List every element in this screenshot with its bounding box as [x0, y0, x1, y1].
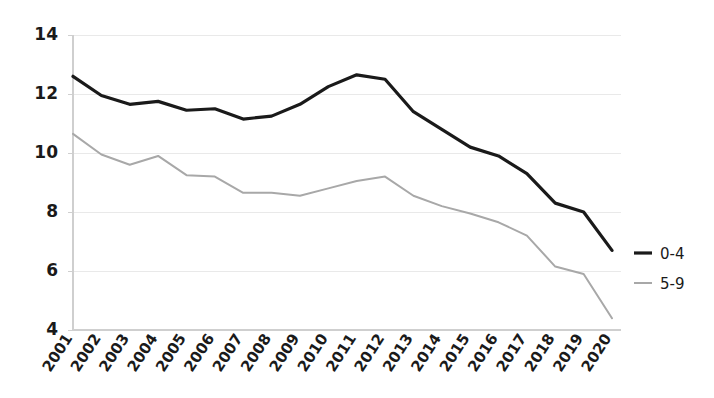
- y-tick-label-8: 8: [46, 201, 58, 221]
- chart-canvas: 468101214 200120022003200420052006200720…: [0, 0, 714, 398]
- y-tick-label-14: 14: [34, 24, 58, 44]
- y-tick-label-12: 12: [34, 83, 58, 103]
- line-chart: 468101214 200120022003200420052006200720…: [0, 0, 714, 398]
- legend-label-5-9: 5-9: [660, 275, 685, 293]
- legend-label-0-4: 0-4: [660, 245, 685, 263]
- y-tick-label-4: 4: [46, 319, 58, 339]
- y-tick-label-6: 6: [46, 260, 58, 280]
- y-tick-label-10: 10: [34, 142, 58, 162]
